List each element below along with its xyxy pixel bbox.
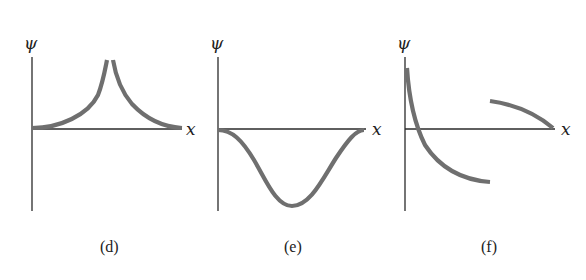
panel-f: ψ x (f) — [397, 33, 571, 256]
panel-d-psi-label: ψ — [24, 33, 38, 53]
panel-f-x-label: x — [561, 119, 571, 139]
panel-e-caption: (e) — [284, 238, 302, 256]
panel-f-curve-right — [490, 101, 553, 128]
panel-d-curve-left — [32, 60, 107, 128]
panel-f-curve-left — [407, 68, 490, 182]
panel-e-curve — [218, 130, 364, 206]
panel-f-caption: (f) — [481, 238, 497, 256]
panel-d-curve-right — [113, 60, 182, 128]
panel-f-psi-label: ψ — [397, 33, 411, 53]
panel-e-psi-label: ψ — [210, 33, 224, 53]
wavefunction-figure: ψ x (d) ψ x (e) ψ x (f) — [0, 0, 586, 280]
panel-d-caption: (d) — [100, 238, 119, 256]
panel-e: ψ x (e) — [210, 33, 382, 256]
panel-d-x-label: x — [186, 119, 196, 139]
panel-d: ψ x (d) — [24, 33, 196, 256]
panel-e-x-label: x — [372, 119, 382, 139]
